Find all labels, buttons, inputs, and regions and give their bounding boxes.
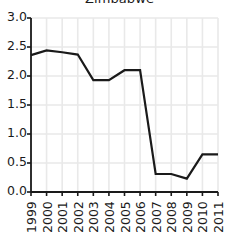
x-tick-label: 2007 — [151, 201, 164, 233]
x-tick-label: 2009 — [182, 201, 195, 233]
x-tick-label: 2011 — [213, 201, 226, 233]
x-tick-label: 2008 — [166, 201, 179, 233]
x-tick-label: 2001 — [57, 201, 70, 233]
x-tick-label: 2005 — [120, 201, 133, 233]
x-tick-label: 2010 — [197, 201, 210, 233]
x-tick-label: 2002 — [73, 201, 86, 233]
chart-figure: Zimbabwe — [0, 0, 239, 237]
x-tick-label: 2000 — [42, 201, 55, 233]
x-axis-tick-labels: 1999 2000 2001 2002 2003 2004 2005 2006 … — [0, 0, 239, 237]
x-tick-label: 2004 — [104, 201, 117, 233]
x-tick-label: 1999 — [26, 201, 39, 233]
x-tick-label: 2003 — [88, 201, 101, 233]
x-tick-label: 2006 — [135, 201, 148, 233]
